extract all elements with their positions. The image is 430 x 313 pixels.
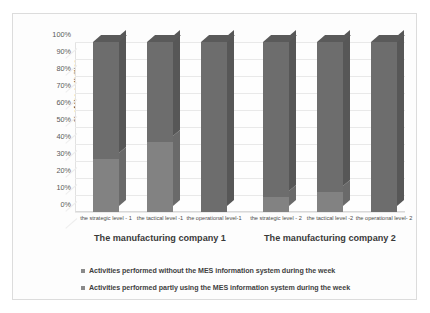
legend-label: Activities performed partly using the ME… [89, 284, 350, 292]
bar-segment[interactable] [93, 159, 119, 212]
bar-segment-side [119, 147, 126, 206]
legend-item[interactable]: Activities performed without the MES inf… [81, 262, 411, 279]
bar-segment[interactable] [371, 42, 397, 212]
bar-segment-side [173, 30, 180, 136]
bar[interactable] [201, 42, 227, 212]
y-axis-tick: 70% [39, 81, 71, 90]
x-axis-group-label: The manufacturing company 2 [245, 233, 415, 243]
page-margin [0, 300, 430, 313]
legend-swatch-icon [81, 269, 85, 273]
bar[interactable] [93, 42, 119, 212]
legend-label: Activities performed without the MES inf… [89, 267, 335, 275]
y-axis-tick: 0% [39, 200, 71, 209]
legend-item[interactable]: Activities performed partly using the ME… [81, 279, 411, 296]
gridline [75, 212, 405, 213]
x-axis-category-label: the strategic level - 2 [247, 215, 305, 222]
bar-segment-side [397, 30, 404, 206]
y-axis-tick: 80% [39, 64, 71, 73]
bar-segment[interactable] [263, 197, 289, 212]
bar-segment[interactable] [147, 42, 173, 142]
bar-segment-side [343, 30, 350, 186]
bar[interactable] [317, 42, 343, 212]
bar-segment[interactable] [317, 42, 343, 192]
legend-swatch-icon [81, 286, 85, 290]
y-axis-tick: 90% [39, 47, 71, 56]
bar-segment-side [119, 30, 126, 153]
bar-segment[interactable] [201, 42, 227, 212]
x-axis-category-label: the operational level- 2 [355, 215, 413, 222]
bar-segment[interactable] [147, 142, 173, 212]
x-axis-category-label: the operational level-1 [185, 215, 243, 222]
bar-segment[interactable] [93, 42, 119, 159]
chart-frame: % of the activities 100%90%80%70%60%50%4… [12, 13, 417, 300]
plot-area [75, 42, 405, 212]
bar-segment[interactable] [263, 42, 289, 197]
y-axis-tick: 10% [39, 183, 71, 192]
bar[interactable] [371, 42, 397, 212]
y-axis-tick: 30% [39, 149, 71, 158]
bar-segment-side [227, 30, 234, 206]
bar[interactable] [263, 42, 289, 212]
x-axis-category-label: the strategic level - 1 [77, 215, 135, 222]
y-axis-tick: 100% [39, 30, 71, 39]
y-axis-tick: 40% [39, 132, 71, 141]
bar-segment-side [173, 130, 180, 206]
bar-segment[interactable] [317, 192, 343, 212]
y-axis-tick: 20% [39, 166, 71, 175]
x-axis-category-label: the tactical level -1 [131, 215, 189, 222]
y-axis-tick: 60% [39, 98, 71, 107]
x-axis-group-label: The manufacturing company 1 [75, 233, 245, 243]
bar-segment-side [289, 30, 296, 191]
bar[interactable] [147, 42, 173, 212]
x-axis-category-label: the tactical level -2 [301, 215, 359, 222]
y-axis-tick: 50% [39, 115, 71, 124]
